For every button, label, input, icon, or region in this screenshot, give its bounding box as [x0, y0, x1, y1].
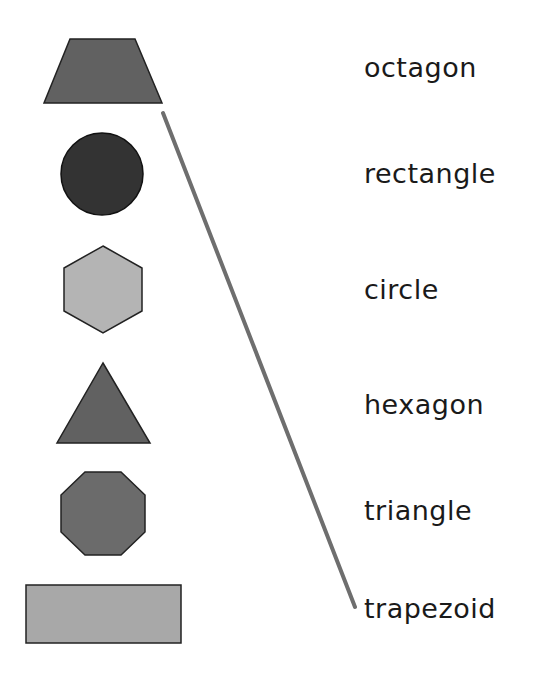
octagon-shape[interactable]	[61, 472, 145, 555]
match-line-trapezoid	[163, 113, 355, 607]
circle-shape[interactable]	[61, 133, 143, 215]
matching-worksheet: octagon rectangle circle hexagon triangl…	[0, 0, 550, 678]
word-trapezoid[interactable]: trapezoid	[364, 595, 496, 622]
hexagon-shape[interactable]	[64, 246, 142, 333]
word-circle[interactable]: circle	[364, 276, 439, 303]
word-rectangle[interactable]: rectangle	[364, 160, 496, 187]
shapes-layer	[0, 0, 550, 678]
word-hexagon[interactable]: hexagon	[364, 391, 484, 418]
triangle-shape[interactable]	[57, 363, 150, 443]
rectangle-shape[interactable]	[26, 585, 181, 643]
word-octagon[interactable]: octagon	[364, 54, 477, 81]
word-triangle[interactable]: triangle	[364, 497, 472, 524]
trapezoid-shape[interactable]	[44, 39, 162, 103]
